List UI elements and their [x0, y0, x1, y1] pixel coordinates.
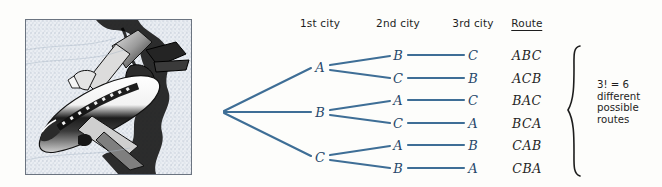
- tree-node-level3-row6: A: [468, 161, 477, 176]
- tree-node-level1-a: A: [315, 60, 324, 75]
- caption-line-3: possible: [597, 102, 659, 114]
- caption-line-2: different: [597, 91, 659, 103]
- tree-node-level1-b: B: [315, 105, 325, 120]
- tree-node-level3-row1: C: [468, 48, 478, 63]
- column-header-2nd-city: 2nd city: [376, 17, 420, 29]
- tree-node-level2-row5: A: [393, 138, 402, 153]
- tree-node-level3-row4: A: [468, 116, 477, 131]
- curly-brace: [566, 44, 592, 178]
- tree-node-level2-row1: B: [393, 48, 403, 63]
- tree-node-level1-c: C: [315, 150, 325, 165]
- caption-formula: 3! = 6: [597, 79, 659, 91]
- route-value-row6: CBA: [512, 161, 542, 176]
- tree-node-level2-row4: C: [393, 116, 403, 131]
- column-header-1st-city: 1st city: [300, 17, 340, 29]
- tree-node-level2-row6: B: [393, 161, 403, 176]
- airplane-illustration-art: [26, 20, 191, 174]
- tree-node-level3-row3: C: [468, 93, 478, 108]
- airplane-illustration: [25, 19, 192, 175]
- caption-line-4: routes: [597, 114, 659, 126]
- column-header-route: Route: [511, 17, 542, 31]
- route-value-row3: BAC: [512, 93, 542, 108]
- tree-node-level2-row2: C: [393, 71, 403, 86]
- tree-node-level3-row5: B: [468, 138, 478, 153]
- tree-node-level3-row2: B: [468, 71, 478, 86]
- caption-block: 3! = 6 different possible routes: [597, 79, 659, 125]
- route-value-row1: ABC: [512, 48, 542, 63]
- permutations-tree-figure: 1st city 2nd city 3rd city Route: [0, 0, 662, 187]
- column-header-3rd-city: 3rd city: [452, 17, 493, 29]
- route-value-row5: CAB: [512, 138, 542, 153]
- route-value-row2: ACB: [512, 71, 542, 86]
- tree-node-level2-row3: A: [393, 93, 402, 108]
- route-value-row4: BCA: [512, 116, 542, 131]
